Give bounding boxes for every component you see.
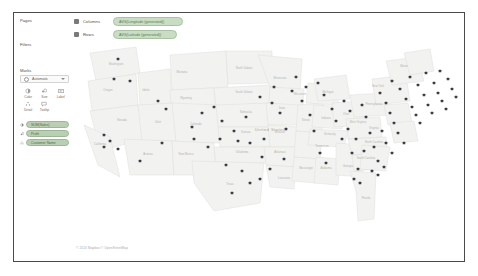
map-mark[interactable]	[273, 86, 276, 89]
map-mark[interactable]	[389, 112, 392, 115]
columns-shelf[interactable]: Columns AVG(Longitude (generated))	[74, 16, 183, 27]
map-mark[interactable]	[385, 142, 388, 145]
map-mark[interactable]	[165, 108, 168, 111]
map-mark[interactable]	[241, 170, 244, 173]
map-mark[interactable]	[411, 106, 414, 109]
map-mark[interactable]	[363, 150, 366, 153]
map-mark[interactable]	[323, 94, 326, 97]
map-mark[interactable]	[403, 142, 406, 145]
marks-pill[interactable]: Customer Name	[26, 139, 69, 146]
map-mark[interactable]	[335, 120, 338, 123]
marks-pill-row[interactable]: SUM(Sales)	[20, 121, 69, 128]
mark-type-dropdown[interactable]: Automatic	[20, 75, 69, 83]
map-mark[interactable]	[377, 160, 380, 163]
map-mark[interactable]	[291, 90, 294, 93]
map-mark[interactable]	[231, 192, 234, 195]
map-mark[interactable]	[157, 100, 160, 103]
map-mark[interactable]	[129, 80, 132, 83]
map-mark[interactable]	[357, 168, 360, 171]
map-mark[interactable]	[221, 120, 224, 123]
map-mark[interactable]	[219, 138, 222, 141]
map-mark[interactable]	[245, 116, 248, 119]
map-mark[interactable]	[201, 112, 204, 115]
map-viewport[interactable]: WashingtonMontanaNorth DakotaMinnesotaOr…	[74, 43, 465, 262]
map-mark[interactable]	[399, 88, 402, 91]
map-mark[interactable]	[283, 158, 286, 161]
map-canvas[interactable]: WashingtonMontanaNorth DakotaMinnesotaOr…	[74, 43, 465, 262]
map-mark[interactable]	[161, 142, 164, 145]
map-mark[interactable]	[103, 134, 106, 137]
map-mark[interactable]	[295, 76, 298, 79]
map-mark[interactable]	[441, 100, 444, 103]
map-mark[interactable]	[417, 84, 420, 87]
map-mark[interactable]	[117, 58, 120, 61]
map-mark[interactable]	[279, 112, 282, 115]
map-mark[interactable]	[259, 96, 262, 99]
map-mark[interactable]	[263, 138, 266, 141]
marks-button-detail[interactable]: Detail	[20, 100, 36, 113]
map-mark[interactable]	[139, 160, 142, 163]
map-mark[interactable]	[261, 156, 264, 159]
map-mark[interactable]	[383, 166, 386, 169]
map-mark[interactable]	[347, 128, 350, 131]
map-mark[interactable]	[207, 146, 210, 149]
map-mark[interactable]	[191, 126, 194, 129]
map-mark[interactable]	[455, 96, 458, 99]
map-mark[interactable]	[341, 138, 344, 141]
map-mark[interactable]	[369, 132, 372, 135]
map-mark[interactable]	[391, 152, 394, 155]
map-mark[interactable]	[301, 100, 304, 103]
map-mark[interactable]	[377, 174, 380, 177]
map-mark[interactable]	[447, 78, 450, 81]
map-mark[interactable]	[103, 146, 106, 149]
map-mark[interactable]	[451, 88, 454, 91]
columns-pill[interactable]: AVG(Longitude (generated))	[113, 17, 183, 26]
map-mark[interactable]	[193, 138, 196, 141]
map-mark[interactable]	[313, 130, 316, 133]
map-mark[interactable]	[237, 140, 240, 143]
map-mark[interactable]	[379, 92, 382, 95]
marks-button-tooltip[interactable]: Tooltip	[36, 100, 52, 113]
map-mark[interactable]	[361, 104, 364, 107]
map-mark[interactable]	[349, 110, 352, 113]
map-mark[interactable]	[309, 114, 312, 117]
rows-shelf[interactable]: Rows AVG(Latitude (generated))	[74, 29, 177, 40]
map-mark[interactable]	[371, 170, 374, 173]
map-mark[interactable]	[269, 168, 272, 171]
map-mark[interactable]	[319, 152, 322, 155]
map-mark[interactable]	[439, 70, 442, 73]
marks-button-size[interactable]: Size	[36, 87, 52, 100]
map-mark[interactable]	[423, 94, 426, 97]
map-mark[interactable]	[405, 98, 408, 101]
map-mark[interactable]	[285, 128, 288, 131]
map-mark[interactable]	[317, 82, 320, 85]
map-mark[interactable]	[385, 102, 388, 105]
map-mark[interactable]	[419, 122, 422, 125]
marks-button-label[interactable]: Label	[53, 87, 69, 100]
map-mark[interactable]	[353, 178, 356, 181]
map-mark[interactable]	[343, 100, 346, 103]
map-mark[interactable]	[397, 132, 400, 135]
marks-button-color[interactable]: Color	[20, 87, 36, 100]
map-mark[interactable]	[393, 122, 396, 125]
map-mark[interactable]	[381, 130, 384, 133]
marks-pill-row[interactable]: Customer Name	[20, 139, 69, 146]
map-mark[interactable]	[305, 86, 308, 89]
marks-pill-row[interactable]: Profit	[20, 130, 69, 137]
map-mark[interactable]	[427, 104, 430, 107]
marks-pill[interactable]: Profit	[26, 130, 69, 137]
map-mark[interactable]	[117, 148, 120, 151]
map-mark[interactable]	[431, 112, 434, 115]
map-mark[interactable]	[259, 178, 262, 181]
map-mark[interactable]	[325, 162, 328, 165]
map-mark[interactable]	[113, 78, 116, 81]
map-mark[interactable]	[225, 164, 228, 167]
map-mark[interactable]	[233, 130, 236, 133]
map-mark[interactable]	[365, 116, 368, 119]
rows-pill[interactable]: AVG(Latitude (generated))	[113, 30, 177, 39]
map-mark[interactable]	[437, 92, 440, 95]
map-mark[interactable]	[249, 142, 252, 145]
map-mark[interactable]	[271, 102, 274, 105]
map-mark[interactable]	[415, 114, 418, 117]
map-mark[interactable]	[433, 82, 436, 85]
